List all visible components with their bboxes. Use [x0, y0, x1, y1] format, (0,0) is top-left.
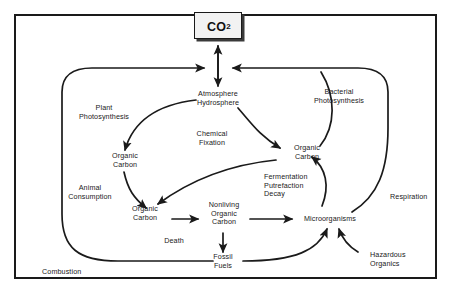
label-chemical-fixation: Chemical Fixation — [183, 130, 241, 147]
label-bacterial-photosynthesis: Bacterial Photosynthesis — [301, 88, 377, 105]
node-organic-carbon-plant: Organic Carbon — [96, 152, 154, 169]
label-death: Death — [157, 237, 191, 246]
co2-text: CO — [207, 20, 226, 34]
node-fossil-fuels: Fossil Fuels — [200, 253, 246, 270]
node-microorganisms: Microorganisms — [291, 215, 369, 224]
node-organic-carbon-bacterial: Organic Carbon — [278, 144, 336, 161]
label-fermentation-putrefaction-decay: Fermentation Putrefaction Decay — [264, 173, 340, 199]
node-atmosphere-hydrosphere: Atmosphere Hydrosphere — [182, 90, 254, 107]
co2-superscript: 2 — [226, 22, 231, 31]
label-plant-photosynthesis: Plant Photosynthesis — [68, 104, 140, 121]
carbon-cycle-diagram: CO2 Atmosphere Hydrosphere Organic Carbo… — [0, 0, 454, 295]
label-respiration: Respiration — [390, 193, 444, 202]
co2-box: CO2 — [194, 12, 242, 39]
co2-label: CO2 — [195, 13, 243, 40]
label-animal-consumption: Animal Consumption — [52, 184, 128, 201]
label-combustion: Combustion — [42, 268, 108, 277]
node-nonliving-organic-carbon: Nonliving Organic Carbon — [196, 201, 252, 227]
label-hazardous-organics: Hazardous Organics — [370, 251, 432, 268]
node-organic-carbon-animal: Organic Carbon — [116, 205, 174, 222]
